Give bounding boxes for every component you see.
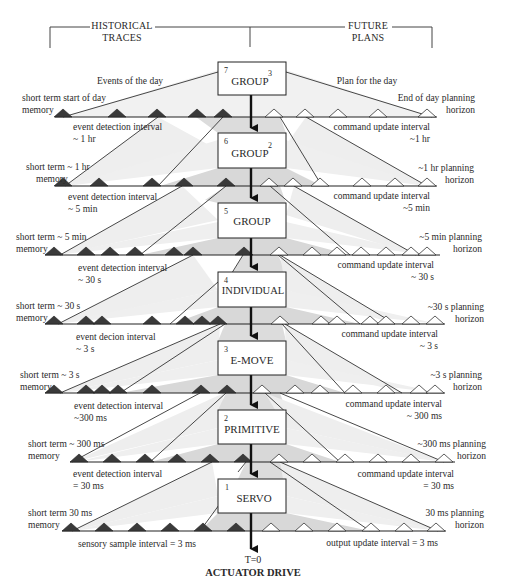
future-title-line2: PLANS: [352, 32, 385, 43]
memory-label-2: memory: [28, 451, 60, 461]
level-number: 2: [224, 414, 228, 423]
horizon-label-2: horizon: [445, 175, 474, 185]
level-box-7: 7 GROUP 3: [218, 62, 286, 95]
horizon-label-2: horizon: [457, 451, 486, 461]
command-interval-label: command update interval: [333, 191, 430, 201]
horizon-label: ~300 ms planning: [418, 439, 487, 449]
command-interval-label: command update interval: [345, 399, 442, 409]
level-name: GROUP: [231, 147, 268, 159]
horizon-label: ~5 min planning: [419, 232, 482, 242]
level-number: 5: [224, 207, 228, 216]
memory-label: short term ~ 5 min: [16, 232, 87, 242]
memory-label: short term start of day: [22, 93, 106, 103]
level-superscript: 2: [268, 141, 272, 150]
command-interval-value: ~ 30 s: [411, 272, 434, 282]
event-interval-label: event detection interval: [74, 401, 164, 411]
event-interval-value: ~ 1 hr: [73, 134, 96, 144]
command-interval-value: ~ 300 ms: [407, 411, 443, 421]
memory-label-2: memory: [36, 174, 68, 184]
horizon-label: 30 ms planning: [425, 508, 484, 518]
event-interval-value: ~300 ms: [74, 413, 107, 423]
command-interval-label: command update interval: [333, 122, 430, 132]
level-name: SERVO: [236, 492, 271, 504]
command-interval-value: ~ 3 s: [420, 341, 439, 351]
memory-label-2: memory: [20, 382, 52, 392]
event-interval-value: ~ 30 s: [78, 275, 101, 285]
command-interval-value: = 30 ms: [423, 481, 454, 491]
level-number: 3: [224, 345, 228, 354]
actuator-drive-label: ACTUATOR DRIVE: [205, 567, 301, 578]
level-superscript: 3: [268, 69, 272, 78]
event-interval-label: event detection interval: [73, 122, 163, 132]
horizon-label: ~3 s planning: [430, 370, 482, 380]
memory-label: short term 30 ms: [28, 508, 92, 518]
horizon-label-2: horizon: [455, 520, 484, 530]
historical-title-line2: TRACES: [102, 32, 142, 43]
horizon-label-2: horizon: [453, 382, 482, 392]
events-of-day-label: Events of the day: [97, 76, 163, 86]
command-interval-label: command update interval: [357, 469, 454, 479]
sensory-interval-label: sensory sample interval = 3 ms: [78, 539, 196, 549]
level-box-5: 5 GROUP: [218, 203, 286, 238]
level-box-6: 6 GROUP 2: [218, 133, 286, 168]
event-interval-value: = 30 ms: [73, 481, 104, 491]
level-box-1: 1 SERVO: [218, 479, 286, 513]
event-interval-label: event detection interval: [68, 192, 158, 202]
level-box-2: 2 PRIMITIVE: [218, 410, 286, 444]
command-interval-value: ~1 hr: [410, 134, 431, 144]
future-title-line1: FUTURE: [348, 20, 388, 31]
memory-label-2: memory: [16, 244, 48, 254]
event-interval-label: event decion interval: [76, 332, 156, 342]
plan-for-day-label: Plan for the day: [337, 76, 398, 86]
level-name: GROUP: [233, 215, 270, 227]
horizon-label: ~1 hr planning: [418, 163, 474, 173]
horizon-label: ~30 s planning: [428, 302, 485, 312]
memory-label: short term ~ 3 s: [20, 370, 80, 380]
event-interval-label: event detection interval: [73, 469, 163, 479]
memory-label: short term ~ 300 ms: [28, 439, 105, 449]
level-name: INDIVIDUAL: [222, 285, 284, 296]
memory-label: short term ~ 30 s: [16, 301, 81, 311]
level-name: PRIMITIVE: [224, 423, 280, 435]
level-name: GROUP: [231, 75, 268, 87]
memory-label-2: memory: [28, 520, 60, 530]
level-number: 1: [225, 483, 229, 492]
t-zero-label: T=0: [245, 554, 262, 565]
command-interval-label: command update interval: [341, 329, 438, 339]
level-number: 7: [224, 66, 228, 75]
command-interval-label: command update interval: [337, 260, 434, 270]
horizon-label: End of day planning: [398, 93, 476, 103]
event-interval-value: ~ 5 min: [68, 204, 98, 214]
horizon-label-2: horizon: [446, 105, 475, 115]
level-box-3: 3 E-MOVE: [218, 341, 286, 375]
level-number: 4: [224, 276, 228, 285]
event-interval-value: ~ 3 s: [76, 344, 95, 354]
level-box-4: 4 INDIVIDUAL: [218, 272, 286, 307]
level-name: E-MOVE: [231, 354, 274, 366]
command-interval-value: ~5 min: [403, 203, 430, 213]
memory-label-2: memory: [16, 313, 48, 323]
level-number: 6: [224, 137, 228, 146]
output-interval-label: output update interval = 3 ms: [326, 538, 438, 548]
hierarchy-diagram: HISTORICAL TRACES FUTURE PLANS: [0, 0, 505, 586]
memory-label-2: memory: [22, 105, 54, 115]
memory-label: short term ~ 1 hr: [26, 162, 91, 172]
historical-title-line1: HISTORICAL: [91, 20, 152, 31]
horizon-label-2: horizon: [455, 314, 484, 324]
event-interval-label: event detection interval: [78, 263, 168, 273]
horizon-label-2: horizon: [453, 244, 482, 254]
